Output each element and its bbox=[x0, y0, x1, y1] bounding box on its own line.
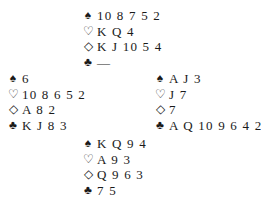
south-hand: ♠ K Q 9 4 ♡ A 9 3 ◇ Q 9 6 3 ♣ 7 5 bbox=[82, 136, 147, 198]
south-diamonds-row: ◇ Q 9 6 3 bbox=[82, 167, 147, 183]
diamond-icon: ◇ bbox=[7, 102, 19, 118]
spade-icon: ♠ bbox=[82, 136, 94, 152]
north-hearts-cards: K Q 4 bbox=[97, 24, 135, 40]
diamond-icon: ◇ bbox=[82, 39, 94, 55]
east-clubs-row: ♣ A Q 10 9 6 4 2 bbox=[154, 118, 261, 134]
south-clubs-row: ♣ 7 5 bbox=[82, 183, 147, 199]
north-diamonds-row: ◇ K J 10 5 4 bbox=[82, 39, 162, 55]
west-spades-cards: 6 bbox=[22, 71, 30, 87]
spade-icon: ♠ bbox=[82, 8, 94, 24]
north-diamonds-cards: K J 10 5 4 bbox=[97, 39, 162, 55]
south-spades-row: ♠ K Q 9 4 bbox=[82, 136, 147, 152]
diamond-icon: ◇ bbox=[82, 167, 94, 183]
west-hand: ♠ 6 ♡ 10 8 6 5 2 ◇ A 8 2 ♣ K J 8 3 bbox=[7, 71, 86, 133]
south-clubs-cards: 7 5 bbox=[97, 183, 117, 199]
north-spades-row: ♠ 10 8 7 5 2 bbox=[82, 8, 162, 24]
west-spades-row: ♠ 6 bbox=[7, 71, 86, 87]
south-spades-cards: K Q 9 4 bbox=[97, 136, 147, 152]
north-spades-cards: 10 8 7 5 2 bbox=[97, 8, 161, 24]
east-hand: ♠ A J 3 ♡ J 7 ◇ 7 ♣ A Q 10 9 6 4 2 bbox=[154, 71, 261, 133]
west-clubs-cards: K J 8 3 bbox=[22, 118, 68, 134]
east-diamonds-cards: 7 bbox=[169, 102, 177, 118]
east-hearts-cards: J 7 bbox=[169, 87, 187, 103]
east-clubs-cards: A Q 10 9 6 4 2 bbox=[169, 118, 261, 134]
east-spades-row: ♠ A J 3 bbox=[154, 71, 261, 87]
club-icon: ♣ bbox=[154, 118, 166, 134]
spade-icon: ♠ bbox=[7, 71, 19, 87]
north-hand: ♠ 10 8 7 5 2 ♡ K Q 4 ◇ K J 10 5 4 ♣ — bbox=[82, 8, 162, 70]
east-spades-cards: A J 3 bbox=[169, 71, 202, 87]
east-diamonds-row: ◇ 7 bbox=[154, 102, 261, 118]
south-diamonds-cards: Q 9 6 3 bbox=[97, 167, 144, 183]
club-icon: ♣ bbox=[82, 55, 94, 71]
east-hearts-row: ♡ J 7 bbox=[154, 87, 261, 103]
club-icon: ♣ bbox=[82, 183, 94, 199]
heart-icon: ♡ bbox=[82, 24, 94, 40]
south-hearts-row: ♡ A 9 3 bbox=[82, 152, 147, 168]
west-diamonds-cards: A 8 2 bbox=[22, 102, 56, 118]
north-clubs-cards: — bbox=[97, 55, 111, 71]
heart-icon: ♡ bbox=[7, 87, 19, 103]
west-hearts-cards: 10 8 6 5 2 bbox=[22, 87, 86, 103]
north-hearts-row: ♡ K Q 4 bbox=[82, 24, 162, 40]
west-clubs-row: ♣ K J 8 3 bbox=[7, 118, 86, 134]
south-hearts-cards: A 9 3 bbox=[97, 152, 131, 168]
spade-icon: ♠ bbox=[154, 71, 166, 87]
north-clubs-row: ♣ — bbox=[82, 55, 162, 71]
diamond-icon: ◇ bbox=[154, 102, 166, 118]
club-icon: ♣ bbox=[7, 118, 19, 134]
west-hearts-row: ♡ 10 8 6 5 2 bbox=[7, 87, 86, 103]
heart-icon: ♡ bbox=[82, 152, 94, 168]
west-diamonds-row: ◇ A 8 2 bbox=[7, 102, 86, 118]
heart-icon: ♡ bbox=[154, 87, 166, 103]
